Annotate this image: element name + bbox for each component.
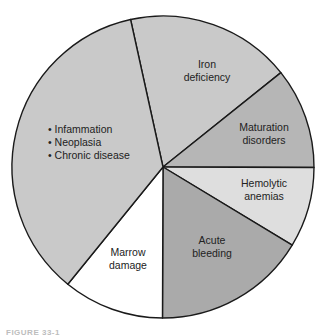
figure-caption: FIGURE 33-1 xyxy=(6,328,60,336)
slice-label: Maturationdisorders xyxy=(239,121,289,146)
pie-chart: IrondeficiencyMaturationdisordersHemolyt… xyxy=(0,0,324,336)
slice-label: Marrowdamage xyxy=(109,246,147,271)
slice-label: Hemolyticanemias xyxy=(241,177,287,202)
pie-slices xyxy=(12,16,314,318)
